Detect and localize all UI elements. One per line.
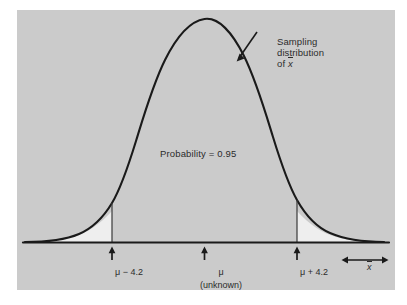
probability-label: Probability = 0.95: [160, 148, 236, 159]
axis-variable-symbol: x: [367, 262, 372, 272]
axis-tick-center-note: (unknown): [191, 280, 251, 290]
tick-arrow-center-icon: [201, 246, 208, 260]
xbar-symbol: x: [288, 58, 293, 69]
curve-callout-of: of: [277, 58, 285, 69]
caption-ghost-text: [14, 294, 394, 302]
xbar-axis-arrow-icon: [342, 257, 389, 264]
sampling-distribution-chart: Sampling distribution of x Probability =…: [17, 10, 395, 290]
axis-variable-label: x: [367, 262, 372, 273]
curve-callout-line1: Sampling: [277, 36, 324, 47]
axis-tick-label-center: μ: [198, 267, 244, 278]
axis-tick-label-right: μ + 4.2: [290, 267, 338, 278]
tick-arrow-left-icon: [109, 246, 116, 260]
normal-distribution-curve: [25, 19, 384, 242]
curve-callout-label: Sampling distribution of x: [277, 36, 324, 70]
axis-tick-label-left: μ − 4.2: [105, 267, 153, 278]
curve-callout-line3: of x: [277, 58, 324, 69]
figure-root: Sampling distribution of x Probability =…: [0, 0, 407, 305]
curve-callout-line2: distribution: [277, 47, 324, 58]
tick-arrow-right-icon: [294, 246, 301, 260]
